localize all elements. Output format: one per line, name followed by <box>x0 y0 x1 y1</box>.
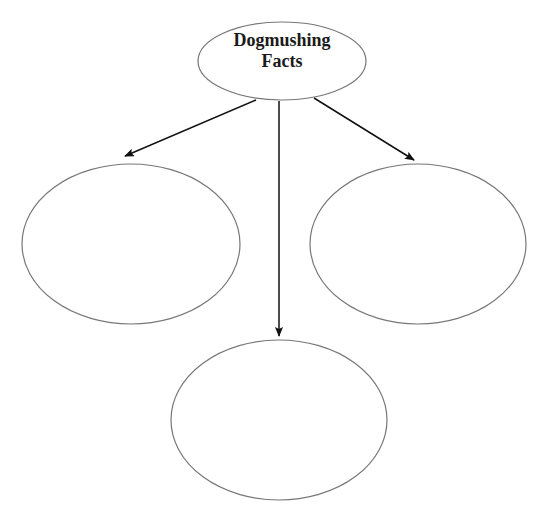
center-node-label: Dogmushing Facts <box>200 30 364 72</box>
left-node-ellipse <box>22 164 240 324</box>
arrow-right <box>314 98 414 160</box>
right-node-ellipse <box>310 164 526 324</box>
arrow-left <box>125 100 256 156</box>
center-node-line2: Facts <box>200 51 364 72</box>
center-node-line1: Dogmushing <box>200 30 364 51</box>
diagram-canvas <box>0 0 545 521</box>
bottom-node-ellipse <box>171 340 387 500</box>
